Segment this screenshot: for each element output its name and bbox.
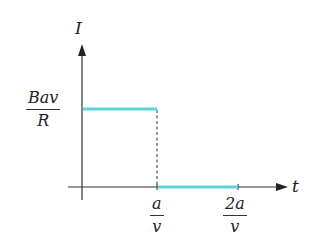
y-axis-arrow-icon: [78, 44, 86, 56]
x-tick1-denominator: v: [152, 216, 161, 235]
x-tick1-numerator: a: [150, 196, 164, 216]
x-tick-label-a-over-v: a v: [150, 196, 164, 235]
x-axis-label: t: [292, 178, 299, 195]
y-tick-label-bav-over-r: Bav R: [26, 90, 60, 129]
x-axis-arrow-icon: [276, 183, 288, 191]
current-time-graph: I t Bav R a v 2a v: [0, 0, 312, 245]
y-axis-label: I: [75, 20, 82, 37]
x-tick-label-2a-over-v: 2a v: [223, 196, 247, 235]
x-tick2-numerator: 2a: [223, 196, 247, 216]
y-tick-numerator: Bav: [26, 90, 60, 110]
y-tick-denominator: R: [37, 110, 49, 129]
x-tick2-denominator: v: [230, 216, 239, 235]
